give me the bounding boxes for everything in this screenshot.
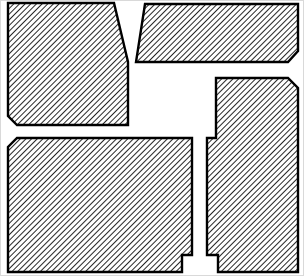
panel-bottom-left bbox=[8, 138, 192, 272]
panel-diagram bbox=[0, 0, 304, 276]
panel-diagram-svg bbox=[0, 0, 304, 276]
panel-top-left bbox=[8, 3, 128, 125]
panel-right-tall bbox=[207, 78, 298, 272]
panel-top-right bbox=[136, 4, 298, 62]
